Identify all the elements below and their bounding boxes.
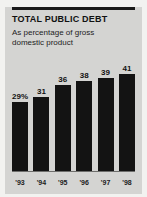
bar-rect (119, 74, 135, 171)
bar-column: 38 (76, 57, 92, 171)
bar-rect (33, 97, 49, 171)
bar-column: 29% (12, 57, 28, 171)
bar-value-label: 38 (80, 71, 89, 80)
bar-value-label: 36 (58, 75, 67, 84)
chart-subtitle: As percentage of gross domestic product (12, 28, 122, 48)
chart-figure: TOTAL PUBLIC DEBT As percentage of gross… (0, 0, 147, 197)
bar-rect (55, 85, 71, 171)
chart-title: TOTAL PUBLIC DEBT (12, 14, 135, 25)
x-axis-tick-label: '94 (33, 178, 49, 187)
bar-column: 36 (55, 57, 71, 171)
bar-series: 29% 31 36 38 39 (12, 57, 135, 171)
x-axis-tick-label: '98 (119, 178, 135, 187)
x-axis-labels: '93 '94 '95 '96 '97 '98 (12, 178, 135, 187)
title-rule (12, 7, 135, 10)
bar-rect (98, 78, 114, 171)
x-axis-tick-label: '93 (12, 178, 28, 187)
plot-area: 29% 31 36 38 39 (12, 57, 135, 188)
x-axis-tick-label: '97 (98, 178, 114, 187)
axis-baseline (12, 171, 135, 172)
bar-column: 39 (98, 57, 114, 171)
x-axis-tick-label: '96 (76, 178, 92, 187)
bar-rect (76, 81, 92, 171)
bar-value-label: 39 (101, 68, 110, 77)
bar-column: 41 (119, 57, 135, 171)
bar-value-label: 29% (12, 92, 28, 101)
bar-column: 31 (33, 57, 49, 171)
chart-panel: TOTAL PUBLIC DEBT As percentage of gross… (5, 7, 142, 194)
bar-rect (12, 102, 28, 171)
bar-value-label: 31 (37, 87, 46, 96)
bar-value-label: 41 (123, 64, 132, 73)
x-axis-tick-label: '95 (55, 178, 71, 187)
